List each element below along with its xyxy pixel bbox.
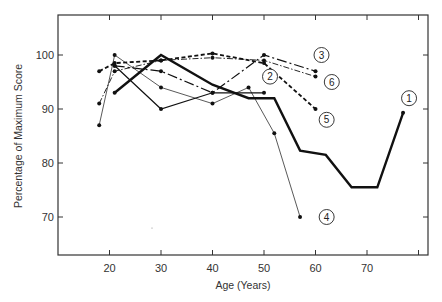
data-point <box>159 69 163 73</box>
plot-frame <box>58 15 428 255</box>
x-tick-label: 50 <box>258 262 270 274</box>
callout-label: 5 <box>324 114 330 125</box>
data-point <box>159 58 163 62</box>
callout-label: 4 <box>324 212 330 223</box>
x-tick-label: 20 <box>103 262 115 274</box>
series-3 <box>113 53 318 95</box>
data-point <box>211 102 215 106</box>
callout-label: 2 <box>267 71 273 82</box>
callout-label: 6 <box>329 77 335 88</box>
data-point <box>97 69 101 73</box>
data-point <box>211 91 215 95</box>
x-tick-label: 40 <box>206 262 218 274</box>
x-axis-title: Age (Years) <box>215 279 270 291</box>
data-point <box>298 215 302 219</box>
callout-label: 1 <box>406 93 412 104</box>
data-point <box>211 56 215 60</box>
data-point <box>314 75 318 79</box>
callout-3: 3 <box>314 48 329 63</box>
series-callouts: 123456 <box>263 48 417 225</box>
data-point <box>272 131 276 135</box>
y-tick-label: 100 <box>36 49 54 61</box>
callout-2: 2 <box>263 69 278 84</box>
data-point <box>113 69 117 73</box>
series-1 <box>113 55 405 187</box>
data-point <box>314 107 318 111</box>
series-lines <box>97 51 405 219</box>
callout-6: 6 <box>324 75 339 90</box>
callout-4: 4 <box>319 210 334 225</box>
y-tick-label: 80 <box>42 157 54 169</box>
data-point <box>401 111 405 115</box>
y-tick-label: 70 <box>42 211 54 223</box>
data-point <box>97 102 101 106</box>
data-point <box>262 91 266 95</box>
x-tick-label: 30 <box>155 262 167 274</box>
data-point <box>113 91 117 95</box>
data-point <box>97 123 101 127</box>
series-line <box>115 55 403 187</box>
speck <box>151 227 152 228</box>
callout-label: 3 <box>319 50 325 61</box>
data-point <box>247 85 251 89</box>
data-point <box>159 107 163 111</box>
x-tick-label: 60 <box>309 262 321 274</box>
y-axis-ticks: 708090100 <box>36 49 428 223</box>
plot-border <box>58 15 428 255</box>
y-tick-label: 90 <box>42 103 54 115</box>
line-chart: 203040506070 708090100 123456 Age (Years… <box>0 0 442 302</box>
callout-5: 5 <box>319 112 334 127</box>
data-point <box>262 58 266 62</box>
x-tick-label: 70 <box>361 262 373 274</box>
callout-1: 1 <box>402 91 417 106</box>
data-point <box>211 51 215 55</box>
data-point <box>113 61 117 65</box>
data-point <box>159 85 163 89</box>
y-axis-title: Percentage of Maximum Score <box>12 64 24 208</box>
data-point <box>314 69 318 73</box>
x-axis-ticks: 203040506070 <box>103 15 418 274</box>
data-point <box>113 53 117 57</box>
data-point <box>262 53 266 57</box>
